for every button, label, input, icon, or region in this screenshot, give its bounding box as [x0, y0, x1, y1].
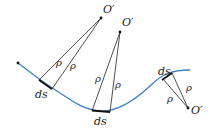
ds-label-3: ds: [158, 65, 171, 78]
center-point-2: [119, 31, 122, 34]
curvature-group-2: O′ ρ ρ ds: [92, 16, 134, 128]
curvature-group-1: O′ ρ ρ ds: [35, 3, 115, 101]
center-label-2: O′: [122, 16, 134, 29]
curvature-group-3: O′ ρ ρ ds: [158, 65, 203, 117]
ds-label-1: ds: [35, 88, 48, 101]
rho-label-2a: ρ: [94, 73, 101, 84]
rho-label-3a: ρ: [185, 82, 192, 93]
rho-label-1a: ρ: [55, 57, 62, 68]
rho-label-3b: ρ: [166, 93, 173, 104]
rho-label-1b: ρ: [69, 60, 76, 71]
center-label-3: O′: [191, 104, 203, 117]
center-point-3: [187, 107, 190, 110]
curve-start-point: [17, 62, 20, 65]
rho-label-2b: ρ: [114, 79, 121, 90]
ds-label-2: ds: [94, 115, 107, 128]
center-label-1: O′: [103, 3, 115, 16]
radius-of-curvature-diagram: O′ ρ ρ ds O′ ρ ρ ds O′ ρ ρ ds: [0, 0, 212, 129]
center-point-1: [100, 17, 103, 20]
